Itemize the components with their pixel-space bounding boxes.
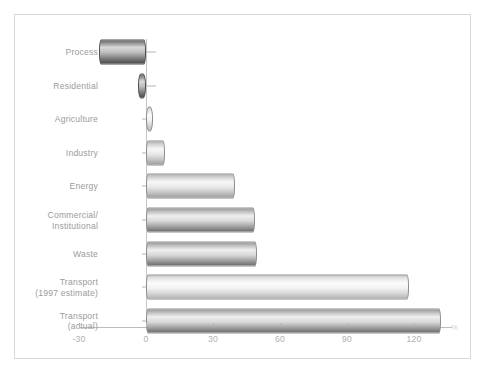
- x-axis-tick-label: 0: [126, 334, 166, 344]
- x-axis-tick: [213, 323, 214, 327]
- x-axis-tick-label: 30: [193, 334, 233, 344]
- x-axis-tick: [347, 323, 348, 327]
- category-tick: [147, 52, 156, 53]
- category-label: Transport (1997 estimate): [0, 277, 98, 298]
- bar: [146, 308, 441, 333]
- x-axis-tick-label: 120: [394, 334, 434, 344]
- bar: [146, 241, 257, 266]
- category-label: Transport (actual): [0, 310, 98, 331]
- bar: [146, 174, 235, 199]
- x-axis-tick-label: 90: [327, 334, 367, 344]
- category-label: Process: [0, 47, 98, 58]
- category-label: Energy: [0, 181, 98, 192]
- bar: [146, 275, 409, 300]
- plot-area: % ProcessResidentialAgricultureIndustryE…: [15, 15, 472, 360]
- category-label: Agriculture: [0, 114, 98, 125]
- category-label: Residential: [0, 80, 98, 91]
- category-label: Waste: [0, 248, 98, 259]
- category-tick: [147, 85, 156, 86]
- bar: [146, 140, 165, 165]
- bar: [146, 208, 255, 233]
- x-axis-tick: [146, 323, 147, 327]
- x-axis-tick-label: 60: [260, 334, 300, 344]
- category-label: Industry: [0, 148, 98, 159]
- x-axis-tick: [79, 323, 80, 327]
- x-axis-tick: [414, 323, 415, 327]
- x-axis-tick-label: -30: [59, 334, 99, 344]
- bar: [138, 73, 146, 98]
- bar: [99, 40, 146, 65]
- chart-frame: % ProcessResidentialAgricultureIndustryE…: [14, 14, 471, 359]
- x-axis-tick: [280, 323, 281, 327]
- category-label: Commercial/ Institutional: [0, 210, 98, 231]
- bar: [146, 107, 153, 132]
- x-axis-unit-label: %: [451, 323, 458, 332]
